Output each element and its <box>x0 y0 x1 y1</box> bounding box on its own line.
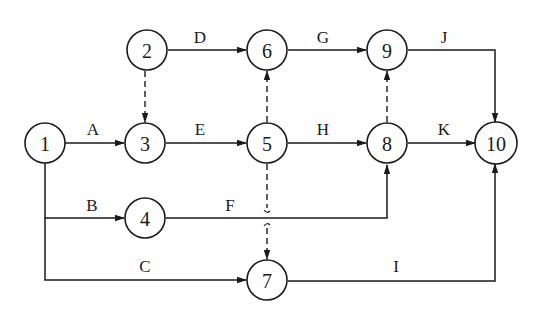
node-5-label: 5 <box>262 133 272 155</box>
node-8: 8 <box>367 123 407 163</box>
activity-a-label: A <box>87 120 100 139</box>
node-6: 6 <box>247 30 287 70</box>
node-1-label: 1 <box>40 133 50 155</box>
crossover-jump-top <box>264 210 270 212</box>
activity-d: D <box>168 28 246 50</box>
node-10: 10 <box>475 122 517 164</box>
activity-k: K <box>408 120 475 143</box>
activity-a: A <box>65 120 124 143</box>
activity-h: H <box>288 120 366 143</box>
activity-e-label: E <box>195 120 205 139</box>
activity-g: G <box>288 28 366 50</box>
activity-j-label: J <box>441 28 448 47</box>
node-7: 7 <box>247 260 287 300</box>
node-9-label: 9 <box>382 40 392 62</box>
node-2: 2 <box>127 30 167 70</box>
node-10-label: 10 <box>486 133 506 155</box>
node-3: 3 <box>125 123 165 163</box>
activity-d-label: D <box>194 28 206 47</box>
activity-h-label: H <box>317 120 329 139</box>
node-7-label: 7 <box>262 270 272 292</box>
activity-i: I <box>288 164 495 281</box>
node-3-label: 3 <box>140 133 150 155</box>
node-5: 5 <box>247 123 287 163</box>
activity-f-label: F <box>225 196 234 215</box>
activity-i-label: I <box>393 257 399 276</box>
node-6-label: 6 <box>262 40 272 62</box>
activity-e: E <box>166 120 246 143</box>
crossover-jump-bottom <box>264 224 270 226</box>
dummy-activity-5-7 <box>264 164 270 259</box>
activity-k-label: K <box>438 120 451 139</box>
activity-g-label: G <box>317 28 329 47</box>
activity-j: J <box>408 28 495 122</box>
activity-c-label: C <box>139 257 150 276</box>
network-diagram: A B C D E F G H I J <box>0 0 537 316</box>
node-4-label: 4 <box>140 208 150 230</box>
node-4: 4 <box>125 198 165 238</box>
node-9: 9 <box>367 30 407 70</box>
node-1: 1 <box>25 123 65 163</box>
node-8-label: 8 <box>382 133 392 155</box>
node-2-label: 2 <box>142 40 152 62</box>
activity-b: B <box>45 163 124 218</box>
activity-f: F <box>166 165 387 218</box>
activity-b-label: B <box>86 196 97 215</box>
